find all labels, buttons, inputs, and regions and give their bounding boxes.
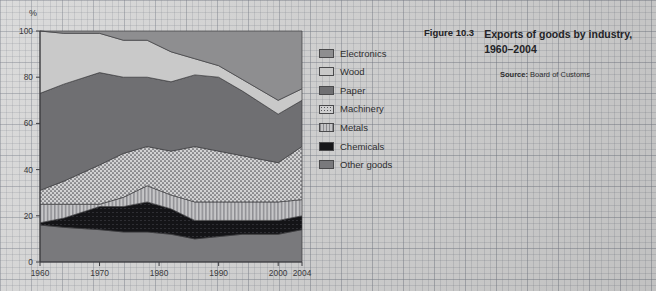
- axis-tick-label: 40: [24, 165, 34, 175]
- legend-item-machinery: Machinery: [319, 100, 429, 119]
- axis-tick-label: 1990: [209, 268, 228, 278]
- axis-tick-label: 20: [24, 211, 34, 221]
- axis-tick-label: 80: [24, 72, 34, 82]
- axis-tick-label: 2004: [293, 268, 312, 278]
- figure-title: Exports of goods by industry, 1960–2004: [484, 27, 634, 57]
- legend-label: Electronics: [340, 49, 386, 59]
- chart-legend: Electronics Wood Paper Machinery Metals …: [319, 44, 429, 174]
- axis-tick-label: 1980: [150, 268, 169, 278]
- figure-title-line1: Exports of goods by industry,: [484, 27, 634, 42]
- legend-label: Chemicals: [340, 142, 384, 152]
- legend-item-chemicals: Chemicals: [319, 137, 429, 156]
- legend-item-metals: Metals: [319, 118, 429, 137]
- legend-swatch-icon: [319, 160, 334, 169]
- legend-item-wood: Wood: [319, 63, 429, 82]
- figure-number: Figure 10.3: [424, 27, 474, 38]
- chart-figure: % 020406080100196019701980199020002004: [0, 0, 320, 291]
- axis-tick-label: 100: [19, 26, 33, 36]
- legend-label: Other goods: [340, 160, 392, 170]
- legend-item-other-goods: Other goods: [319, 156, 429, 175]
- source-label: Source:: [500, 70, 528, 79]
- legend-label: Paper: [340, 86, 365, 96]
- legend-swatch-icon: [319, 86, 334, 95]
- source-value: Board of Customs: [530, 70, 590, 79]
- axis-tick-label: 0: [28, 257, 33, 267]
- axis-tick-label: 1970: [90, 268, 109, 278]
- legend-swatch-icon: [319, 123, 334, 132]
- figure-caption: Figure 10.3 Exports of goods by industry…: [424, 27, 639, 57]
- chart-areas: [40, 31, 302, 262]
- stacked-area-chart: 020406080100196019701980199020002004: [0, 0, 320, 291]
- legend-item-electronics: Electronics: [319, 44, 429, 63]
- legend-item-paper: Paper: [319, 81, 429, 100]
- axis-tick-label: 1960: [31, 268, 50, 278]
- legend-swatch-icon: [319, 105, 334, 114]
- legend-label: Wood: [340, 67, 365, 77]
- figure-title-line2: 1960–2004: [484, 42, 634, 57]
- legend-label: Machinery: [340, 104, 384, 114]
- axis-tick-label: 2000: [269, 268, 288, 278]
- axis-tick-label: 60: [24, 118, 34, 128]
- legend-swatch-icon: [319, 49, 334, 58]
- figure-source: Source: Board of Customs: [500, 70, 590, 79]
- legend-label: Metals: [340, 123, 368, 133]
- legend-swatch-icon: [319, 142, 334, 151]
- legend-swatch-icon: [319, 67, 334, 76]
